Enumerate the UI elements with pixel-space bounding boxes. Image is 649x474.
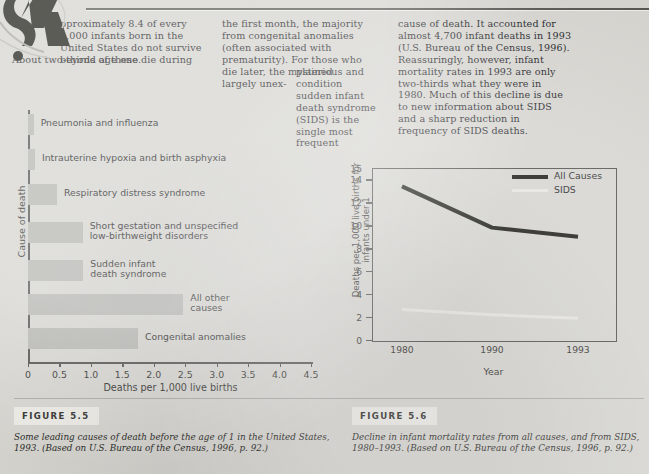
- figure-5-6-caption-block: FIGURE 5.6 Decline in infant mortality r…: [352, 404, 644, 455]
- bar-chart-x-tick-label: 3.5: [241, 369, 256, 380]
- bar-chart-bar-label: All other causes: [190, 293, 229, 314]
- bar-chart-x-tick: [185, 362, 186, 367]
- figure-5-5-tag: FIGURE 5.5: [14, 407, 99, 425]
- legend-swatch: [512, 175, 548, 179]
- bar-chart-bar: [28, 184, 57, 205]
- top-horizontal-rule: [86, 8, 649, 10]
- bar-chart-bar-label: Respiratory distress syndrome: [64, 188, 205, 199]
- paragraph-text: cause of death. It accounted for almost …: [398, 18, 572, 137]
- bar-chart-x-axis-line: [28, 362, 313, 364]
- legend-swatch: [512, 189, 548, 192]
- bar-chart-x-axis-label: Deaths per 1,000 live births: [28, 382, 313, 393]
- bar-chart-x-tick-label: 1.5: [115, 369, 130, 380]
- bar-chart-x-tick-label: 4.5: [304, 369, 319, 380]
- bar-chart-x-tick-label: 0: [25, 369, 31, 380]
- dropcap-ornament: [0, 0, 94, 76]
- legend-label: SIDS: [554, 184, 576, 195]
- bar-chart-bar: [28, 149, 35, 170]
- figure-5-5-bar-chart: Cause of death Pneumonia and influenzaIn…: [0, 104, 340, 394]
- bar-chart-x-tick: [122, 362, 123, 367]
- bar-chart-x-tick: [248, 362, 249, 367]
- bar-chart-bar: [28, 328, 138, 349]
- figure-5-6-caption-text: Decline in infant mortality rates from a…: [352, 432, 644, 455]
- bar-chart-x-tick: [280, 362, 281, 367]
- body-column-3: cause of death. It accounted for almost …: [398, 18, 572, 137]
- legend-label: All Causes: [554, 170, 602, 181]
- bar-chart-bar-label: Short gestation and unspecified low-birt…: [90, 221, 238, 242]
- bar-chart-x-tick-label: 4.0: [272, 369, 287, 380]
- bar-chart-bar: [28, 260, 83, 281]
- line-chart-x-axis-label: Year: [372, 366, 615, 377]
- bar-chart-bar-label: Congenital anomalies: [145, 332, 246, 343]
- figure-5-6-tag: FIGURE 5.6: [352, 407, 437, 425]
- caption-divider-rule: [14, 398, 644, 399]
- bar-chart-x-tick: [154, 362, 155, 367]
- bar-chart-x-tick: [91, 362, 92, 367]
- bar-chart-y-axis-label: Cause of death: [16, 167, 27, 277]
- bar-chart-bar-label: Sudden infant death syndrome: [90, 259, 166, 280]
- bar-chart-bar: [28, 294, 183, 315]
- bar-chart-x-tick-label: 0.5: [52, 369, 67, 380]
- bar-chart-bar: [28, 114, 34, 135]
- line-chart-series-line: [402, 186, 578, 236]
- figure-5-5-caption-text: Some leading causes of death before the …: [14, 432, 332, 455]
- bar-chart-x-tick-label: 1.0: [83, 369, 98, 380]
- bar-chart-bar-label: Pneumonia and influenza: [41, 118, 159, 129]
- bar-chart-bar: [28, 222, 83, 243]
- bar-chart-x-tick-label: 2.0: [146, 369, 161, 380]
- bar-chart-x-tick: [217, 362, 218, 367]
- bar-chart-x-tick-label: 3.0: [209, 369, 224, 380]
- figure-5-5-caption-block: FIGURE 5.5 Some leading causes of death …: [14, 404, 332, 455]
- bar-chart-x-tick-label: 2.5: [178, 369, 193, 380]
- line-chart-series-line: [402, 310, 578, 319]
- figure-5-6-line-chart: Deaths per 1,000 live births for infants…: [340, 160, 649, 395]
- line-chart-series-svg: [340, 160, 649, 395]
- bar-chart-x-tick: [311, 362, 312, 367]
- bar-chart-bar-label: Intrauterine hypoxia and birth asphyxia: [42, 153, 226, 164]
- bar-chart-x-tick: [59, 362, 60, 367]
- bar-chart-x-tick: [28, 362, 29, 367]
